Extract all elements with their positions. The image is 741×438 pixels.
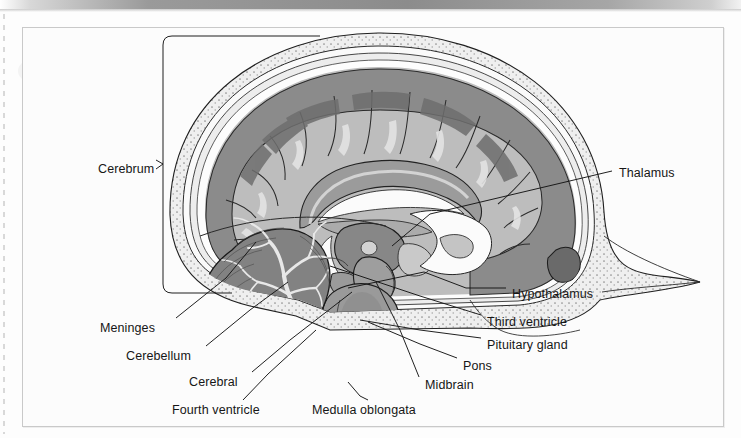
label-thalamus: Thalamus	[619, 167, 675, 180]
label-midbrain: Midbrain	[425, 379, 474, 392]
label-cerebellum: Cerebellum	[126, 350, 191, 363]
brain-contents	[200, 67, 580, 438]
label-pituitary-gland: Pituitary gland	[487, 339, 568, 352]
sella-turcica	[344, 330, 378, 347]
cerebellar-tonsil	[244, 330, 302, 352]
leader-fourth-ventricle	[243, 330, 316, 400]
interthalamic-adhesion	[361, 241, 377, 255]
brain-sagittal-illustration	[0, 0, 741, 438]
label-hypothalamus: Hypothalamus	[512, 288, 593, 301]
label-cerebrum: Cerebrum	[98, 163, 154, 176]
leader-medulla-oblongata	[348, 382, 368, 400]
leader-cerebrum-brace	[156, 160, 163, 169]
label-pons: Pons	[463, 360, 492, 373]
label-third-ventricle: Third ventricle	[487, 316, 567, 329]
label-medulla-oblongata: Medulla oblongata	[312, 404, 416, 417]
label-fourth-ventricle: Fourth ventricle	[172, 404, 260, 417]
page-root: Cerebrum Thalamus Hypothalamus Third ven…	[0, 0, 741, 438]
spinal-cord	[330, 414, 368, 438]
label-cerebral: Cerebral	[189, 376, 238, 389]
label-meninges: Meninges	[100, 322, 155, 335]
